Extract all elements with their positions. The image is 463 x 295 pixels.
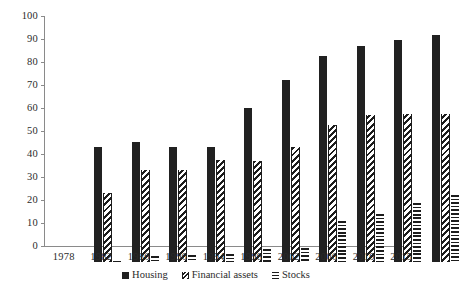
bar-financial-assets (441, 114, 450, 262)
y-axis-tick-label: 60 (0, 103, 38, 113)
y-axis-tick-label: 80 (0, 57, 38, 67)
bar-financial-assets (253, 161, 262, 262)
bar-housing (319, 56, 327, 262)
bar-financial-assets (141, 170, 150, 262)
bar-group (164, 32, 202, 262)
housing-swatch-icon (122, 272, 129, 279)
bar-housing (357, 46, 365, 262)
y-axis-tick-label: 20 (0, 195, 38, 205)
bar-housing (244, 108, 252, 262)
bar-financial-assets (328, 125, 337, 262)
bar-group (352, 32, 390, 262)
x-axis-tick-label: 1978 (45, 250, 83, 264)
bar-group (277, 32, 315, 262)
legend-item[interactable]: Financial assets (182, 269, 258, 281)
y-axis-tick-label: 100 (0, 11, 38, 21)
bar-housing (432, 35, 440, 262)
bar-group (89, 32, 127, 262)
bar-financial-assets (403, 114, 412, 262)
financial-assets-swatch-icon (182, 272, 189, 279)
bar-housing (394, 40, 402, 262)
x-axis-labels: 1978198219861990199419982002200620102015 (45, 250, 420, 264)
x-axis-tick-label: 1986 (120, 250, 158, 264)
x-axis-tick-label: 2006 (308, 250, 346, 264)
legend-item[interactable]: Stocks (272, 269, 310, 281)
bar-groups (89, 32, 463, 262)
bar-housing (132, 142, 140, 262)
x-axis-tick-label: 1982 (83, 250, 121, 264)
bar-financial-assets (366, 115, 375, 262)
bar-housing (282, 80, 290, 262)
chart-legend: HousingFinancial assetsStocks (0, 269, 432, 281)
x-axis-tick-label: 1990 (158, 250, 196, 264)
bar-group (427, 32, 463, 262)
y-axis-tick-label: 90 (0, 34, 38, 44)
bar-group (239, 32, 277, 262)
x-axis-tick-label: 2015 (383, 250, 421, 264)
bar-housing (169, 147, 177, 262)
bar-financial-assets (216, 160, 225, 262)
y-axis-tick-label: 40 (0, 149, 38, 159)
y-axis-tick-label: 70 (0, 80, 38, 90)
bar-group (127, 32, 165, 262)
bar-housing (94, 147, 102, 262)
stocks-swatch-icon (272, 272, 279, 279)
y-axis-tick-label: 50 (0, 126, 38, 136)
legend-item-label: Stocks (282, 269, 310, 281)
x-axis-tick-label: 1994 (195, 250, 233, 264)
legend-item-label: Financial assets (192, 269, 258, 281)
bar-financial-assets (291, 147, 300, 262)
x-axis-tick-label: 2002 (270, 250, 308, 264)
legend-item[interactable]: Housing (122, 269, 168, 281)
bar-housing (207, 147, 215, 262)
y-axis-tick-label: 10 (0, 218, 38, 228)
bar-group (202, 32, 240, 262)
bar-stocks (451, 195, 459, 262)
legend-item-label: Housing (132, 269, 168, 281)
plot-area (44, 16, 420, 248)
bar-financial-assets (178, 170, 187, 262)
x-axis-tick-label: 1998 (233, 250, 271, 264)
y-axis-tick-label: 30 (0, 172, 38, 182)
bar-group (314, 32, 352, 262)
y-axis-tick-label: 0 (0, 241, 38, 251)
bar-group (389, 32, 427, 262)
x-axis-tick-label: 2010 (345, 250, 383, 264)
